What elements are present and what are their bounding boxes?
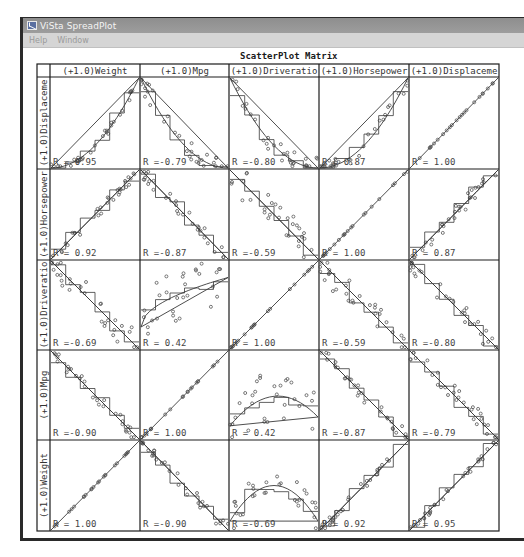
regression-line bbox=[410, 78, 498, 168]
data-point bbox=[177, 212, 180, 215]
data-point bbox=[464, 208, 467, 211]
row-header: (+1.0)Weight bbox=[39, 453, 49, 518]
scatter-cell: R = 0.95 bbox=[50, 78, 140, 168]
correlation-label: R = 0.42 bbox=[232, 428, 275, 438]
regression-line bbox=[141, 278, 228, 328]
correlation-label: R =-0.90 bbox=[143, 519, 186, 529]
data-point bbox=[263, 208, 266, 211]
column-header: (+1.0)Horsepower bbox=[321, 66, 408, 76]
data-point bbox=[267, 193, 270, 196]
data-point bbox=[314, 527, 317, 530]
data-point bbox=[290, 381, 293, 384]
data-point bbox=[348, 279, 351, 282]
data-point bbox=[274, 203, 277, 206]
regression-line bbox=[141, 351, 228, 439]
data-point bbox=[441, 231, 444, 234]
scatter-cell: R =-0.69 bbox=[230, 475, 318, 530]
data-point bbox=[83, 380, 86, 383]
column-header: (+1.0)Driveratio bbox=[231, 66, 318, 76]
step-curve bbox=[141, 174, 228, 252]
data-point bbox=[203, 227, 206, 230]
data-point bbox=[85, 281, 88, 284]
data-point bbox=[401, 425, 404, 428]
regression-line bbox=[51, 441, 139, 530]
data-point bbox=[96, 399, 99, 402]
data-point bbox=[178, 317, 181, 320]
data-point bbox=[295, 224, 298, 227]
data-point bbox=[475, 423, 478, 426]
data-point bbox=[469, 470, 472, 473]
step-curve bbox=[410, 444, 498, 528]
data-point bbox=[270, 202, 273, 205]
data-point bbox=[303, 489, 306, 492]
step-curve bbox=[51, 265, 139, 342]
data-point bbox=[267, 147, 270, 150]
scatter-cell: R =-0.79 bbox=[409, 351, 498, 439]
data-point bbox=[206, 153, 209, 156]
data-point bbox=[292, 215, 295, 218]
data-point bbox=[286, 217, 289, 220]
scatter-cell: R = 1.00 bbox=[320, 170, 409, 259]
data-point bbox=[442, 498, 445, 501]
data-point bbox=[304, 157, 307, 160]
scatter-cell: R =-0.90 bbox=[51, 351, 139, 439]
data-point bbox=[312, 391, 315, 394]
data-point bbox=[104, 322, 107, 325]
data-point bbox=[263, 211, 266, 214]
regression-line bbox=[320, 170, 408, 259]
data-point bbox=[474, 197, 477, 200]
data-point bbox=[128, 431, 131, 434]
data-point bbox=[254, 390, 257, 393]
data-point bbox=[152, 188, 155, 191]
data-point bbox=[247, 482, 250, 485]
step-curve bbox=[51, 363, 139, 429]
scatter-cell: R = 1.00 bbox=[51, 441, 139, 530]
data-point bbox=[464, 321, 467, 324]
data-point bbox=[279, 384, 282, 387]
data-point bbox=[169, 192, 172, 195]
data-point bbox=[52, 268, 55, 271]
data-point bbox=[302, 256, 305, 259]
column-header: (+1.0)Displaceme bbox=[411, 66, 498, 76]
data-point bbox=[181, 275, 184, 278]
correlation-label: R =-0.59 bbox=[232, 248, 275, 258]
data-point bbox=[413, 272, 416, 275]
data-point bbox=[116, 340, 119, 343]
correlation-label: R =-0.79 bbox=[143, 157, 186, 167]
data-point bbox=[177, 483, 180, 486]
data-point bbox=[196, 492, 199, 495]
step-curve bbox=[230, 179, 318, 255]
data-point bbox=[406, 84, 409, 87]
data-point bbox=[402, 337, 405, 340]
data-point bbox=[200, 262, 203, 265]
correlation-label: R = 1.00 bbox=[412, 157, 455, 167]
scatter-cell: R = 0.87 bbox=[410, 170, 498, 259]
data-point bbox=[220, 246, 223, 249]
data-point bbox=[368, 304, 371, 307]
data-point bbox=[172, 310, 175, 313]
data-point bbox=[197, 502, 200, 505]
data-point bbox=[128, 330, 131, 333]
correlation-label: R =-0.69 bbox=[232, 519, 275, 529]
row-header: (+1.0)Driveratio bbox=[39, 262, 49, 349]
data-point bbox=[147, 183, 150, 186]
data-point bbox=[276, 475, 279, 478]
data-point bbox=[155, 281, 158, 284]
data-point bbox=[172, 314, 175, 317]
scatter-cell: R =-0.59 bbox=[319, 261, 408, 349]
data-point bbox=[311, 501, 314, 504]
data-point bbox=[186, 294, 189, 297]
data-point bbox=[198, 272, 201, 275]
data-point bbox=[146, 326, 149, 329]
data-point bbox=[241, 199, 244, 202]
step-curve bbox=[410, 264, 498, 346]
data-point bbox=[216, 295, 219, 298]
data-point bbox=[366, 484, 369, 487]
data-point bbox=[182, 296, 185, 299]
column-header: (+1.0)Mpg bbox=[160, 66, 209, 76]
data-point bbox=[472, 418, 475, 421]
data-point bbox=[453, 217, 456, 220]
scatter-cell: R =-0.90 bbox=[140, 441, 230, 530]
data-point bbox=[465, 307, 468, 310]
data-point bbox=[359, 483, 362, 486]
